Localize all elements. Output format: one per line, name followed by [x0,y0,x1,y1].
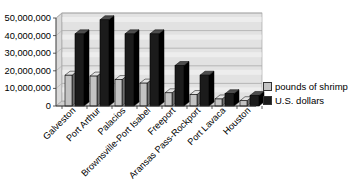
legend-swatch-pounds-icon [263,82,272,91]
bar-dollars-7 [250,91,264,106]
y-tick-label: 40,000,000 [4,31,51,41]
bar-dollars-3 [150,30,164,106]
legend-swatch-dollars-icon [263,96,272,105]
side-wall [56,13,62,106]
y-tick-label: 10,000,000 [4,83,51,93]
category-label: Houston [221,105,252,136]
bar-dollars-1 [100,16,114,106]
legend-label-dollars: U.S. dollars [275,95,324,106]
legend-label-pounds: pounds of shrimp [275,81,348,92]
wall-band [63,17,262,22]
bar-dollars-0 [75,30,89,106]
legend-item-pounds: pounds of shrimp [263,81,348,92]
y-tick-label: 30,000,000 [4,48,51,58]
bar-dollars-2 [125,30,139,106]
shrimp-landings-chart: 010,000,00020,000,00030,000,00040,000,00… [0,0,350,188]
legend: pounds of shrimp U.S. dollars [263,81,348,106]
y-tick-label: 20,000,000 [4,66,51,76]
bar-dollars-6 [225,90,239,106]
bar-dollars-5 [200,71,214,106]
y-tick-label: 0 [46,101,51,111]
y-tick-label: 50,000,000 [4,13,51,23]
legend-item-dollars: U.S. dollars [263,95,348,106]
bar-dollars-4 [175,62,189,106]
